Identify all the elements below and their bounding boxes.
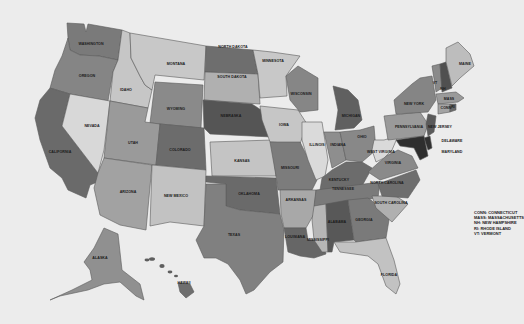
state-ar [280, 190, 316, 228]
state-label-nm: NEW MEXICO [164, 194, 188, 198]
abbreviation-legend: CONN: CONNECTICUT MASS: MASSACHUSETTS NH… [474, 210, 524, 236]
state-label-ut: UTAH [128, 141, 138, 145]
state-label-wv: WEST VIRGINIA [367, 150, 395, 154]
state-label-wy: WYOMING [167, 107, 185, 111]
state-label-pa: PENNSYLVANIA [395, 125, 424, 129]
state-label-va: VIRGINIA [385, 161, 402, 165]
state-label-ia: IOWA [279, 123, 289, 127]
state-label-ca: CALIFORNIA [49, 150, 72, 154]
state-label-ga: GEORGIA [355, 218, 373, 222]
state-ak [50, 228, 144, 300]
state-fl [334, 238, 400, 294]
state-label-ms: MISSISSIPPI [307, 238, 329, 242]
state-mi [333, 86, 362, 130]
state-label-sc: SOUTH CAROLINA [374, 201, 408, 205]
legend-line: VT: VERMONT [474, 231, 524, 236]
state-wy [150, 82, 203, 128]
state-label-nh: NH [440, 87, 446, 91]
state-label-mt: MONTANA [167, 62, 186, 66]
state-label-tx: TEXAS [228, 233, 241, 237]
state-label-in: INDIANA [330, 143, 346, 147]
state-label-al: ALABAMA [328, 220, 347, 224]
state-label-ne: NEBRASKA [221, 114, 242, 118]
state-label-or: OREGON [79, 74, 96, 78]
state-label-co: COLORADO [169, 148, 191, 152]
state-hi [178, 283, 194, 298]
state-label-fl: FLORIDA [381, 273, 398, 277]
state-ny [394, 76, 436, 114]
state-label-sd: SOUTH DAKOTA [217, 75, 247, 79]
state-label-ct: CONN [441, 106, 452, 110]
state-nd [205, 46, 258, 74]
state-label-oh: OHIO [357, 135, 367, 139]
state-label-wi: WISCONSIN [290, 92, 312, 96]
state-label-ok: OKLAHOMA [238, 192, 260, 196]
state-az [94, 158, 152, 230]
state-label-vt: VT [433, 81, 438, 85]
state-label-il: ILLINOIS [309, 143, 325, 147]
state-label-mo: MISSOURI [281, 166, 299, 170]
state-label-nd: NORTH DAKOTA [218, 45, 248, 49]
state-wi [286, 66, 318, 112]
state-label-ar: ARKANSAS [286, 198, 307, 202]
state-label-me: MAINE [459, 62, 471, 66]
state-label-de: DELAWARE [442, 139, 463, 143]
state-label-ma: MASS [444, 97, 455, 101]
state-label-wa: WASHINGTON [78, 42, 104, 46]
state-label-nj: NEW JERSEY [428, 125, 453, 129]
state-label-tn: TENNESSEE [332, 187, 355, 191]
state-label-ny: NEW YORK [404, 102, 424, 106]
state-label-nc: NORTH CAROLINA [370, 181, 404, 185]
state-label-ak: ALASKA [92, 256, 108, 260]
state-label-nv: NEVADA [84, 124, 100, 128]
state-label-ri: RI [451, 105, 455, 109]
state-label-hi: HAWAII [177, 281, 190, 285]
legend-line: NH: NEW HAMPSHIRE [474, 220, 524, 225]
state-label-md: MARYLAND [442, 150, 463, 154]
state-label-mn: MINNESOTA [262, 59, 284, 63]
hawaii-islands [145, 257, 179, 277]
state-label-az: ARIZONA [120, 190, 137, 194]
state-label-ky: KENTUCKY [329, 178, 350, 182]
state-label-ks: KANSAS [234, 159, 250, 163]
state-label-mi: MICHIGAN [342, 114, 361, 118]
state-label-la: LOUISIANA [285, 235, 306, 239]
state-label-id: IDAHO [120, 88, 132, 92]
